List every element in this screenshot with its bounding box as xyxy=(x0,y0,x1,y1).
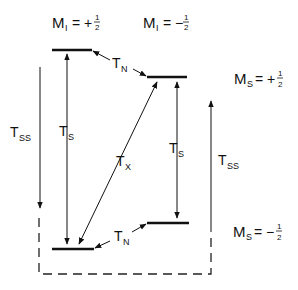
svg-text:2: 2 xyxy=(184,23,189,32)
label-tss-left: T SS xyxy=(10,124,31,143)
svg-text:M: M xyxy=(143,14,156,31)
header-mi-plus-half: M I = + 1 2 xyxy=(52,13,100,33)
svg-text:T: T xyxy=(114,228,123,244)
label-tn-top: T N xyxy=(112,55,128,74)
svg-text:S: S xyxy=(246,232,252,242)
svg-text:X: X xyxy=(125,162,131,172)
tn-top-arrow-b xyxy=(133,69,146,76)
svg-text:M: M xyxy=(234,70,247,87)
label-ms-plus-half: M S = + 1 2 xyxy=(234,69,283,89)
label-tx: T X xyxy=(116,153,131,172)
svg-text:= −: = − xyxy=(254,224,274,240)
label-tn-bottom: T N xyxy=(114,228,130,247)
svg-text:N: N xyxy=(123,237,130,247)
svg-text:T: T xyxy=(116,153,125,169)
tn-top-arrow-a xyxy=(93,51,110,60)
svg-text:S: S xyxy=(178,149,184,159)
svg-text:M: M xyxy=(233,223,246,240)
label-ms-minus-half: M S = − 1 2 xyxy=(233,222,282,242)
energy-level-diagram: M I = + 1 2 M I = − 1 2 M S = + 1 2 M S … xyxy=(0,0,298,290)
svg-text:1: 1 xyxy=(278,69,283,78)
svg-text:T: T xyxy=(169,140,178,156)
svg-text:T: T xyxy=(112,55,121,71)
header-mi-minus-half: M I = − 1 2 xyxy=(143,13,189,33)
svg-text:= −: = − xyxy=(163,15,183,31)
svg-text:T: T xyxy=(218,152,227,168)
svg-text:I: I xyxy=(65,23,68,33)
svg-text:1: 1 xyxy=(184,13,189,22)
svg-text:T: T xyxy=(10,124,19,140)
svg-text:S: S xyxy=(247,79,253,89)
svg-text:= +: = + xyxy=(255,71,275,87)
svg-text:S: S xyxy=(68,132,74,142)
svg-text:2: 2 xyxy=(95,23,100,32)
svg-text:1: 1 xyxy=(277,222,282,231)
tn-bottom-arrow-b xyxy=(132,224,146,232)
svg-text:1: 1 xyxy=(95,13,100,22)
svg-text:SS: SS xyxy=(227,161,239,171)
svg-text:SS: SS xyxy=(19,133,31,143)
svg-text:M: M xyxy=(52,14,65,31)
svg-text:I: I xyxy=(156,23,159,33)
svg-text:2: 2 xyxy=(278,80,283,89)
svg-text:T: T xyxy=(59,123,68,139)
svg-text:N: N xyxy=(121,64,128,74)
tn-bottom-arrow-a xyxy=(95,241,110,248)
svg-text:2: 2 xyxy=(277,233,282,242)
label-tss-right: T SS xyxy=(218,152,239,171)
svg-text:= +: = + xyxy=(72,15,92,31)
